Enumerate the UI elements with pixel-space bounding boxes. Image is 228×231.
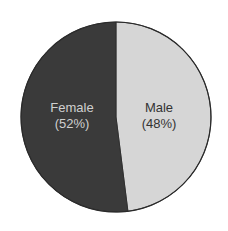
pie-chart: Female (52%) Male (48%) — [0, 0, 228, 231]
pie-slices — [21, 22, 211, 212]
female-percent: (52%) — [55, 116, 90, 131]
male-label: Male — [145, 100, 173, 115]
female-label: Female — [50, 100, 93, 115]
male-percent: (48%) — [142, 116, 177, 131]
